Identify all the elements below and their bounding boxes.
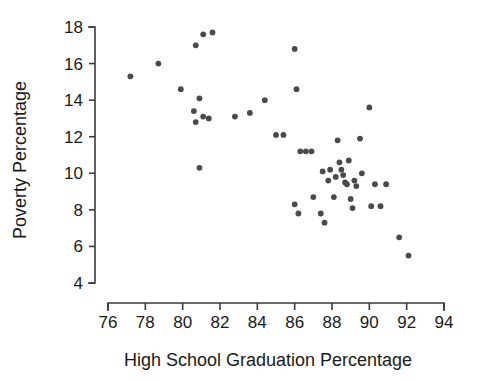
data-point xyxy=(200,31,206,37)
data-point xyxy=(318,211,324,217)
y-tick-label: 12 xyxy=(64,128,83,147)
data-points-layer xyxy=(127,30,411,259)
data-point xyxy=(353,183,359,189)
data-point xyxy=(340,172,346,178)
x-tick-label: 82 xyxy=(211,313,230,332)
data-point xyxy=(368,203,374,209)
plot-canvas: 4681012141618 76788082848688909294 High … xyxy=(0,0,477,380)
x-tick-label: 88 xyxy=(323,313,342,332)
data-point xyxy=(372,181,378,187)
data-point xyxy=(333,174,339,180)
x-tick-label: 84 xyxy=(248,313,267,332)
x-tick-label: 94 xyxy=(435,313,454,332)
y-tick-label: 10 xyxy=(64,164,83,183)
data-point xyxy=(193,42,199,48)
data-point xyxy=(309,148,315,154)
data-point xyxy=(197,95,203,101)
data-point xyxy=(156,61,162,67)
data-point xyxy=(335,137,341,143)
data-point xyxy=(344,181,350,187)
y-axis-line xyxy=(88,27,95,283)
data-point xyxy=(320,169,326,175)
data-point xyxy=(303,148,309,154)
data-point xyxy=(346,158,352,164)
data-point xyxy=(338,167,344,173)
data-point xyxy=(206,116,212,122)
data-point xyxy=(310,194,316,200)
y-tick-label: 14 xyxy=(64,91,83,110)
x-tick-label: 78 xyxy=(136,313,155,332)
data-point xyxy=(197,165,203,171)
data-point xyxy=(348,196,354,202)
data-point xyxy=(331,194,337,200)
x-axis-title: High School Graduation Percentage xyxy=(124,350,412,370)
data-point xyxy=(325,178,331,184)
data-point xyxy=(296,211,302,217)
data-point xyxy=(210,30,216,36)
data-point xyxy=(352,178,358,184)
data-point xyxy=(383,181,389,187)
x-tick-label: 90 xyxy=(360,313,379,332)
data-point xyxy=(350,205,356,211)
y-tick-label: 4 xyxy=(74,274,83,293)
data-point xyxy=(127,73,133,79)
data-point xyxy=(273,132,279,138)
y-tick-label: 18 xyxy=(64,18,83,37)
data-point xyxy=(322,220,328,226)
x-tick-label: 86 xyxy=(285,313,304,332)
data-point xyxy=(292,201,298,207)
y-tick-label: 6 xyxy=(74,237,83,256)
x-axis: 76788082848688909294 xyxy=(99,303,454,332)
x-tick-label: 80 xyxy=(173,313,192,332)
scatter-plot-figure: 4681012141618 76788082848688909294 High … xyxy=(0,0,477,380)
data-point xyxy=(193,119,199,125)
x-axis-line xyxy=(108,303,444,311)
data-point xyxy=(191,108,197,114)
data-point xyxy=(247,110,253,116)
data-point xyxy=(327,167,333,173)
data-point xyxy=(232,114,238,120)
data-point xyxy=(378,203,384,209)
data-point xyxy=(262,97,268,103)
data-point xyxy=(406,253,412,259)
data-point xyxy=(366,105,372,111)
data-point xyxy=(294,86,300,92)
data-point xyxy=(292,46,298,52)
x-tick-label: 92 xyxy=(397,313,416,332)
data-point xyxy=(396,234,402,240)
data-point xyxy=(297,148,303,154)
data-point xyxy=(281,132,287,138)
data-point xyxy=(359,170,365,176)
data-point xyxy=(200,114,206,120)
y-axis: 4681012141618 xyxy=(64,18,95,293)
y-tick-label: 8 xyxy=(74,201,83,220)
data-point xyxy=(337,159,343,165)
y-axis-title: Poverty Percentage xyxy=(10,81,30,239)
data-point xyxy=(178,86,184,92)
y-tick-label: 16 xyxy=(64,55,83,74)
x-tick-label: 76 xyxy=(99,313,118,332)
data-point xyxy=(357,136,363,142)
